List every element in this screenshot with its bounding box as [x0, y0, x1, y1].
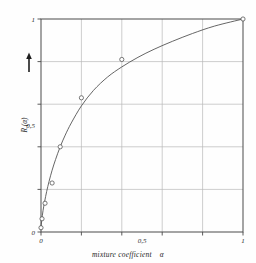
x-tick-label: 0 [39, 237, 43, 245]
x-axis-tick-labels: 00,51 [39, 237, 245, 245]
x-axis-title-symbol: α [160, 250, 164, 259]
y-axis-arrow-icon [26, 53, 32, 73]
y-tick-label: 1 [32, 16, 36, 24]
data-point-marker [120, 57, 124, 61]
horizontal-gridlines [41, 62, 243, 190]
data-curve [41, 19, 243, 228]
x-axis-ticks [41, 232, 243, 236]
data-point-marker [50, 181, 54, 185]
data-point-marker [43, 201, 47, 205]
data-point-marker [40, 217, 44, 221]
x-axis-title: mixture coefficient α [92, 250, 164, 259]
chart-canvas: 00,51 00,51 R (α) mixture coefficient α [0, 0, 256, 263]
data-point-marker [58, 145, 62, 149]
plot-frame [41, 19, 243, 232]
x-tick-label: 1 [241, 237, 245, 245]
x-axis-title-text: mixture coefficient [92, 250, 152, 259]
x-tick-label: 0,5 [138, 237, 147, 245]
data-point-marker [79, 96, 83, 100]
y-axis-title: R (α) [20, 117, 29, 134]
data-point-markers [39, 17, 245, 230]
data-point-marker [39, 226, 43, 230]
gridlines [41, 19, 243, 232]
figure-container: 00,51 00,51 R (α) mixture coefficient α [0, 0, 256, 263]
y-axis-ticks [38, 19, 42, 232]
data-point-marker [241, 17, 245, 21]
y-tick-label: 0 [32, 229, 36, 237]
frame-rect [41, 19, 243, 232]
vertical-gridlines [81, 19, 202, 232]
